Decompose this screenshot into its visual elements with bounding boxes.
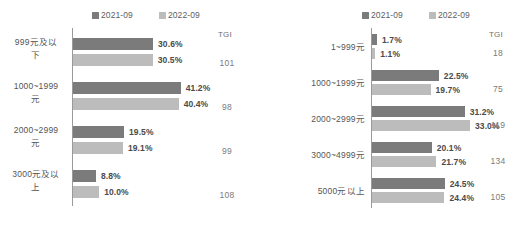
bar-value-label: 8.8% (101, 170, 121, 182)
bar-2021-09[interactable] (73, 126, 124, 138)
bar-value-label: 21.7% (441, 156, 466, 168)
bar-value-label: 30.6% (158, 38, 183, 50)
category-label: 999元及以 下 (4, 36, 68, 61)
tgi-column-header: TGI (489, 30, 503, 39)
bar-value-label: 30.5% (158, 54, 183, 66)
bar-value-label: 24.4% (449, 192, 474, 204)
tgi-column-header: TGI (218, 30, 232, 39)
bar-value-label: 31.2% (470, 106, 495, 118)
category-label: 1~999元 (283, 41, 365, 54)
bar-2022-09[interactable] (372, 120, 470, 131)
tgi-value: 105 (481, 192, 515, 202)
bar-2022-09[interactable] (73, 98, 179, 110)
bar-2021-09[interactable] (73, 82, 181, 94)
bar-value-label: 20.1% (437, 142, 462, 154)
bar-value-label: 40.4% (184, 98, 209, 110)
bar-2021-09[interactable] (372, 34, 377, 45)
bar-2021-09[interactable] (73, 38, 153, 50)
bar-value-label: 24.5% (450, 178, 475, 190)
bar-value-label: 41.2% (186, 82, 211, 94)
tgi-value: 108 (210, 190, 244, 200)
bar-2021-09[interactable] (372, 106, 465, 117)
bar-2022-09[interactable] (372, 156, 436, 167)
bar-2021-09[interactable] (372, 142, 432, 153)
tgi-value: 75 (481, 84, 515, 94)
bar-2022-09[interactable] (73, 142, 123, 154)
tgi-value: 99 (210, 146, 244, 156)
tgi-value: 134 (481, 156, 515, 166)
bar-value-label: 19.1% (128, 142, 153, 154)
tgi-value: 18 (481, 48, 515, 58)
bar-2022-09[interactable] (372, 84, 431, 95)
category-label: 2000~2999 元 (4, 124, 68, 149)
bar-2022-09[interactable] (73, 186, 99, 198)
category-label: 3000元及以 上 (4, 168, 68, 193)
bar-value-label: 22.5% (444, 70, 469, 82)
bar-2021-09[interactable] (372, 70, 439, 81)
bar-2021-09[interactable] (372, 178, 445, 189)
tgi-value: 119 (481, 120, 515, 130)
bar-value-label: 1.1% (380, 48, 400, 60)
bar-2022-09[interactable] (372, 48, 375, 59)
plot-area-left: TGI 999元及以 下30.6%30.5%1011000~1999 元41.2… (0, 0, 265, 225)
bar-2022-09[interactable] (73, 54, 153, 66)
category-label: 5000元以上 (283, 185, 365, 198)
bar-chart-right: 2021-09 2022-09 TGI 1~999元1.7%1.1%181000… (265, 0, 530, 225)
dual-bar-chart-container: 2021-09 2022-09 TGI 999元及以 下30.6%30.5%10… (0, 0, 530, 225)
bar-2022-09[interactable] (372, 192, 444, 203)
bar-value-label: 10.0% (104, 186, 129, 198)
bar-value-label: 1.7% (382, 34, 402, 46)
category-label: 3000~4999元 (283, 149, 365, 162)
tgi-value: 98 (210, 102, 244, 112)
category-label: 1000~1999元 (283, 77, 365, 90)
bar-chart-left: 2021-09 2022-09 TGI 999元及以 下30.6%30.5%10… (0, 0, 265, 225)
plot-area-right: TGI 1~999元1.7%1.1%181000~1999元22.5%19.7%… (265, 0, 530, 225)
bar-value-label: 19.7% (436, 84, 461, 96)
bar-value-label: 19.5% (129, 126, 154, 138)
bar-2021-09[interactable] (73, 170, 96, 182)
tgi-value: 101 (210, 58, 244, 68)
category-label: 1000~1999 元 (4, 80, 68, 105)
category-label: 2000~2999元 (283, 113, 365, 126)
